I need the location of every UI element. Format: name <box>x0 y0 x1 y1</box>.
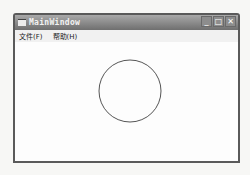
circle-layer <box>0 0 250 175</box>
circle-shape <box>99 60 161 122</box>
